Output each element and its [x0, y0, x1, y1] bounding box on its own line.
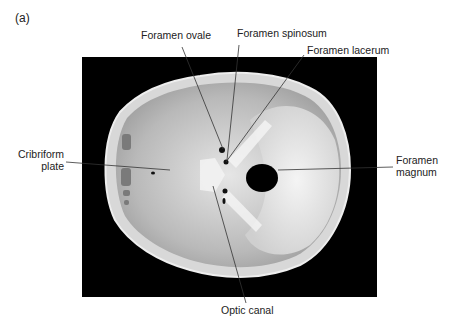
skull-illustration [0, 0, 451, 334]
foramen-magnum-shape [246, 164, 278, 192]
